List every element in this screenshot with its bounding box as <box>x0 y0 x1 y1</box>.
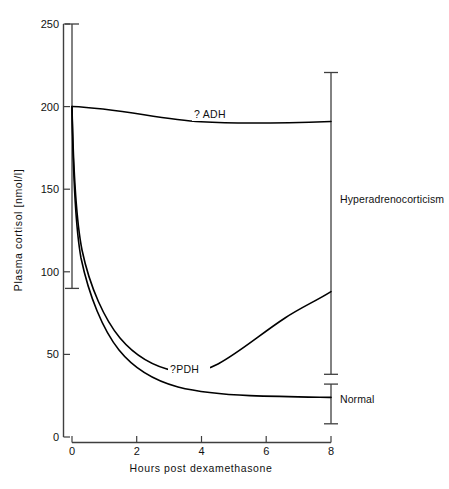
x-tick-0: 0 <box>69 445 75 457</box>
y-tick-labels: 250 200 150 100 50 0 <box>41 18 59 443</box>
x-axis <box>72 436 331 443</box>
y-tick-0: 0 <box>53 431 59 443</box>
x-tick-8: 8 <box>328 445 334 457</box>
annotation-hyperadrenocorticism-label: Hyperadrenocorticism <box>340 193 444 205</box>
x-tick-6: 6 <box>263 445 269 457</box>
x-axis-title: Hours post dexamethasone <box>130 462 273 474</box>
y-tick-100: 100 <box>41 266 59 278</box>
x-tick-labels: 0 2 4 6 8 <box>69 445 334 457</box>
chart-container: 250 200 150 100 50 0 Plasma cortisol [nm… <box>0 0 449 489</box>
annotation-pdh-label: ?PDH <box>170 363 199 375</box>
annotation-normal-label: Normal <box>340 393 374 405</box>
curve-normal <box>72 107 331 398</box>
annotation-adh-label: ? ADH <box>194 108 226 120</box>
y-axis-title: Plasma cortisol [nmol/l] <box>12 169 24 291</box>
y-tick-150: 150 <box>41 183 59 195</box>
annotation-adh: ? ADH <box>192 107 240 121</box>
y-tick-250: 250 <box>41 18 59 30</box>
x-tick-2: 2 <box>134 445 140 457</box>
y-axis <box>64 24 71 437</box>
y-tick-200: 200 <box>41 101 59 113</box>
error-bar-hyperadrenocorticism <box>324 73 338 375</box>
error-bar-baseline <box>65 24 79 288</box>
y-tick-50: 50 <box>47 348 59 360</box>
cortisol-suppression-chart: 250 200 150 100 50 0 Plasma cortisol [nm… <box>0 0 449 489</box>
curve-pdh <box>72 107 331 373</box>
error-bar-normal <box>324 384 338 424</box>
x-tick-4: 4 <box>198 445 204 457</box>
annotation-pdh: ?PDH <box>168 362 210 376</box>
